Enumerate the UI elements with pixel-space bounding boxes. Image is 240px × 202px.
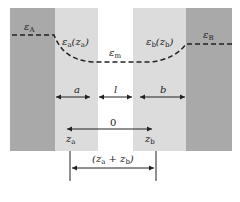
label-eps-b: εb(zb) — [146, 37, 173, 50]
label-eps-B: εB — [203, 30, 214, 43]
permittivity-profile — [12, 35, 232, 62]
za-label: za — [66, 134, 75, 147]
sum-label: (za + zb) — [92, 154, 134, 167]
label-eps-A: εA — [24, 22, 34, 35]
dim-label-b: b — [160, 85, 166, 95]
origin-label: 0 — [110, 118, 116, 128]
dim-label-a: a — [74, 85, 80, 95]
dim-label-l: l — [114, 85, 117, 95]
zb-label: zb — [145, 134, 155, 147]
label-eps-m: εm — [109, 48, 121, 61]
label-eps-a: εa(za) — [62, 37, 89, 50]
